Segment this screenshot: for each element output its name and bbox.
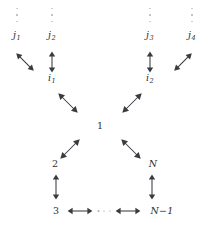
dot [149, 14, 150, 15]
graph-hierarchy-diagram: j1 j2 j3 j4 i1 [0, 0, 209, 227]
dot [51, 8, 52, 9]
node-three: 3 [53, 206, 59, 216]
node-j3: j3 [146, 30, 154, 41]
edge-i1-root-diagonal-arrow-icon [57, 92, 79, 114]
node-root-1: 1 [97, 121, 103, 131]
node-j4-subscript: 4 [192, 34, 196, 42]
edge-j2-i1-vertical-arrow-icon [47, 51, 57, 73]
dot [16, 21, 17, 22]
node-i1: i1 [48, 73, 56, 84]
node-i1-subscript: 1 [52, 77, 56, 85]
dot [191, 14, 192, 15]
node-i2-subscript: 2 [150, 77, 154, 85]
edge-three-dots-horizontal-arrow-icon [67, 206, 93, 216]
edge-n-nminus1-vertical-arrow-icon [147, 174, 157, 200]
dot [109, 210, 111, 212]
node-n: N [149, 159, 158, 169]
vertical-ellipsis-above-j1 [16, 8, 19, 22]
node-j3-subscript: 3 [150, 34, 154, 42]
dot [51, 21, 52, 22]
dot [16, 14, 17, 15]
edge-i2-root-diagonal-arrow-icon [121, 92, 143, 114]
dot [191, 8, 192, 9]
edge-j1-i1-diagonal-arrow-icon [15, 52, 35, 72]
edge-j3-i2-vertical-arrow-icon [145, 51, 155, 73]
dot [16, 8, 17, 9]
node-j4: j4 [188, 30, 196, 41]
node-two: 2 [52, 159, 58, 169]
edge-root-n-diagonal-arrow-icon [120, 138, 142, 160]
dot [51, 14, 52, 15]
node-n-minus-1: N−1 [151, 206, 174, 216]
edge-root-two-diagonal-arrow-icon [59, 138, 81, 160]
node-i2: i2 [146, 73, 154, 84]
edge-dots-nminus1-horizontal-arrow-icon [115, 206, 141, 216]
edge-two-three-vertical-arrow-icon [51, 174, 61, 200]
node-j1-subscript: 1 [17, 34, 21, 42]
dot [149, 8, 150, 9]
dot [103, 210, 105, 212]
dot [191, 21, 192, 22]
edge-j4-i2-diagonal-arrow-icon [173, 52, 193, 72]
dot [149, 21, 150, 22]
vertical-ellipsis-above-j3 [149, 8, 152, 22]
dot [98, 210, 100, 212]
node-i1-base: i [48, 72, 51, 83]
horizontal-ellipsis-bottom-row [98, 210, 111, 213]
vertical-ellipsis-above-j4 [191, 8, 194, 22]
node-j2-subscript: 2 [52, 34, 56, 42]
vertical-ellipsis-above-j2 [51, 8, 54, 22]
node-j2: j2 [48, 30, 56, 41]
node-j1: j1 [13, 30, 21, 41]
node-i2-base: i [146, 72, 149, 83]
